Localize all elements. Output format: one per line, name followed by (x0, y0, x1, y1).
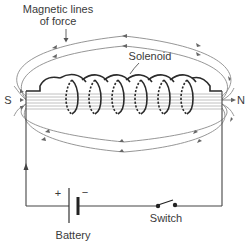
arrow-icon (20, 89, 24, 93)
arrow-icon (20, 98, 24, 102)
switch (156, 200, 177, 208)
field-lines-pointer-arrow-icon (64, 38, 69, 43)
lower-field-loop-1 (21, 104, 227, 142)
field-lines-label-line1: Magnetic lines (23, 3, 94, 15)
field-lines-label-line2: of force (40, 15, 77, 27)
arrow-icon (230, 117, 233, 122)
arrow-icon (196, 52, 201, 56)
switch-label: Switch (150, 212, 182, 224)
arrow-icon (122, 34, 127, 38)
arrow-icon (119, 139, 124, 142)
lower-field-loop-2 (24, 108, 225, 152)
core-field-lines (26, 94, 234, 109)
upper-field-loops (17, 34, 231, 99)
battery-positive-sign: + (55, 187, 61, 199)
battery-negative-sign: − (82, 186, 88, 198)
current-direction-arrow-icon (24, 163, 29, 170)
arrow-icon (197, 139, 202, 143)
arrow-icon (122, 44, 127, 48)
lower-field-loops (21, 104, 233, 152)
solenoid-diagram: Magnetic lines of force Solenoid (0, 0, 248, 242)
arrow-icon (119, 149, 124, 152)
arrow-icon (52, 54, 57, 58)
arrow-icon (41, 137, 46, 141)
solenoid-pointer (130, 63, 139, 74)
switch-lever (158, 200, 173, 205)
south-pole-label: S (4, 94, 11, 106)
north-pole-label: N (237, 94, 245, 106)
arrow-icon (52, 45, 57, 49)
arrow-icon (196, 43, 201, 47)
battery: + − (55, 186, 88, 223)
battery-label: Battery (56, 229, 91, 241)
switch-contact-right (173, 203, 177, 207)
